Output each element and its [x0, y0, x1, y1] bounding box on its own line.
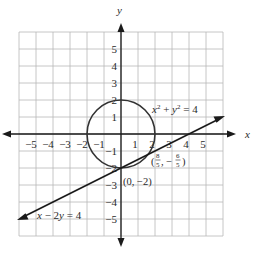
circle-equation-label: x2 + y2 = 4: [151, 103, 198, 115]
intersection-label-8-5-neg6-5: ( 8 5 , − 6 5 ): [151, 152, 186, 169]
line-equation-label: x − 2y = 4: [36, 209, 82, 221]
svg-text:5: 5: [156, 161, 160, 169]
svg-text:6: 6: [176, 152, 180, 160]
svg-text:(: (: [151, 156, 155, 168]
svg-text:5: 5: [176, 161, 180, 169]
y-tick-label: −3: [105, 179, 117, 191]
y-tick-label: 4: [112, 60, 118, 72]
x-axis-left-arrow-icon: [2, 131, 11, 138]
x-tick-label: 5: [200, 138, 206, 150]
x-tick-label: −5: [25, 138, 37, 150]
svg-text:8: 8: [156, 152, 160, 160]
svg-text:): ): [182, 156, 186, 168]
x-tick-label: −3: [59, 138, 71, 150]
y-tick-label: 5: [112, 43, 118, 55]
y-axis-label: y: [116, 4, 122, 16]
y-tick-label: 3: [112, 77, 118, 89]
intersection-label-0-neg2: (0, −2): [123, 176, 152, 188]
y-axis-up-arrow-icon: [118, 23, 125, 32]
y-tick-label: 1: [112, 111, 118, 123]
x-tick-label: −2: [76, 138, 88, 150]
y-tick-label: −5: [105, 213, 117, 225]
svg-text:, −: , −: [161, 156, 172, 167]
y-tick-label: −4: [105, 196, 117, 208]
x-tick-label: −4: [42, 138, 54, 150]
coordinate-graph: x y −5−4−3−2−112345 54321−1−2−3−4−5 x2 +…: [0, 0, 255, 256]
x-tick-label: 4: [183, 138, 189, 150]
x-axis-right-arrow-icon: [227, 131, 236, 138]
x-axis-label: x: [244, 128, 250, 140]
y-axis-down-arrow-icon: [118, 238, 125, 247]
x-tick-label: 1: [132, 138, 138, 150]
x-tick-label: −1: [93, 138, 105, 150]
y-tick-label: −1: [105, 145, 117, 157]
